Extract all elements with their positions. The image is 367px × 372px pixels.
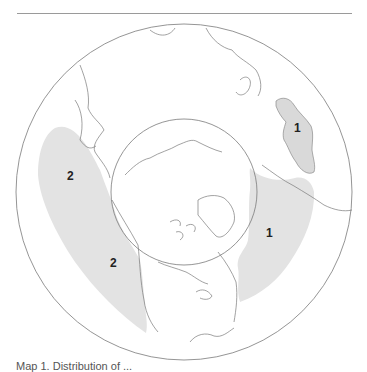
region-2-area: [38, 127, 147, 333]
region-label-1-scandinavia: 1: [294, 121, 301, 135]
region-1-scandinavia-area: [276, 98, 315, 173]
coastline-siberia: [125, 140, 222, 175]
coastline-eurasia-north: [150, 28, 261, 96]
region-1-area: [238, 168, 314, 302]
region-label-1-atlantic: 1: [266, 226, 273, 240]
arctic-circle: [111, 119, 257, 265]
map-caption: Map 1. Distribution of ...: [16, 360, 132, 372]
coastline-na-east: [158, 252, 237, 322]
region-label-2-south: 2: [110, 256, 117, 270]
coastline-novaya-zemlya: [236, 77, 250, 95]
coastline-arctic-islands: [170, 220, 195, 240]
region-label-2-north: 2: [67, 169, 74, 183]
coastline-greenland: [198, 196, 235, 238]
coastline-gulf: [190, 328, 234, 342]
distribution-regions: [38, 98, 315, 333]
coastline-great-lakes: [196, 290, 212, 299]
